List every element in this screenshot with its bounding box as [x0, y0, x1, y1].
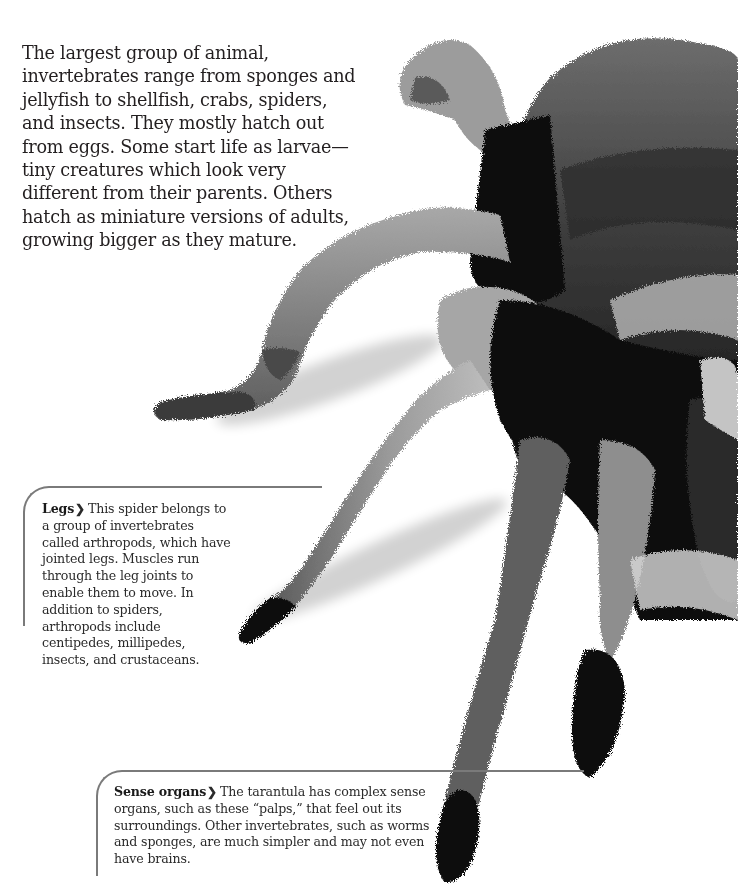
callout-sense-organs: Sense organs❯The tarantula has complex s…: [96, 770, 584, 876]
chevron-right-icon: ❯: [75, 502, 85, 516]
callout-legs-text: Legs❯This spider belongs to a group of i…: [23, 486, 232, 669]
intro-paragraph: The largest group of animal, invertebrat…: [22, 42, 362, 253]
chevron-right-icon: ❯: [207, 785, 217, 799]
callout-legs: Legs❯This spider belongs to a group of i…: [23, 486, 323, 626]
callout-sense-organs-heading: Sense organs: [114, 784, 206, 799]
callout-sense-organs-text: Sense organs❯The tarantula has complex s…: [96, 770, 444, 868]
callout-legs-body: This spider belongs to a group of invert…: [42, 501, 231, 667]
callout-legs-heading: Legs: [42, 501, 74, 516]
